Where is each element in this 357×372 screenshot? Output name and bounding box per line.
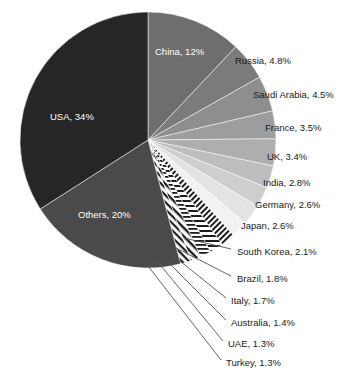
- slice-label-germany: Germany, 2.6%: [255, 199, 321, 210]
- slice-label-china: China, 12%: [155, 46, 205, 57]
- slice-label-uae: UAE, 1.3%: [228, 338, 275, 349]
- slice-label-turkey: Turkey, 1.3%: [226, 357, 281, 368]
- pie-chart-figure: China, 12%USA, 34%Others, 20%Russia, 4.8…: [0, 0, 357, 372]
- leader-line-turkey: [148, 266, 221, 360]
- slice-label-saudi-arabia: Saudi Arabia, 4.5%: [253, 89, 334, 100]
- leader-line-australia: [163, 257, 226, 320]
- leader-line-italy: [170, 253, 226, 298]
- slice-label-usa: USA, 34%: [50, 111, 94, 122]
- slice-label-japan: Japan, 2.6%: [241, 220, 294, 231]
- slice-label-australia: Australia, 1.4%: [231, 317, 295, 328]
- leader-line-uae: [157, 261, 223, 341]
- slice-label-others: Others, 20%: [78, 209, 131, 220]
- slice-label-russia: Russia, 4.8%: [235, 55, 292, 66]
- pie-slices-group: [20, 12, 276, 268]
- slice-label-italy: Italy, 1.7%: [231, 295, 275, 306]
- slice-label-india: India, 2.8%: [263, 177, 311, 188]
- slice-label-uk: UK, 3.4%: [267, 151, 308, 162]
- slice-label-france: France, 3.5%: [265, 122, 322, 133]
- pie-chart-svg: China, 12%USA, 34%Others, 20%Russia, 4.8…: [0, 0, 357, 372]
- slice-label-south-korea: South Korea, 2.1%: [237, 246, 317, 257]
- slice-label-brazil: Brazil, 1.8%: [237, 273, 288, 284]
